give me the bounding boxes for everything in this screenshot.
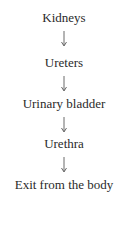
node-ureters: Ureters [0,55,128,71]
node-urethra: Urethra [0,136,128,152]
node-urinary-bladder: Urinary bladder [0,96,128,112]
arrow-down-icon [60,117,68,133]
node-exit-from-body: Exit from the body [0,177,128,193]
arrow-down-icon [60,76,68,92]
node-kidneys: Kidneys [0,10,128,26]
arrow-down-icon [60,31,68,47]
arrow-down-icon [60,157,68,173]
